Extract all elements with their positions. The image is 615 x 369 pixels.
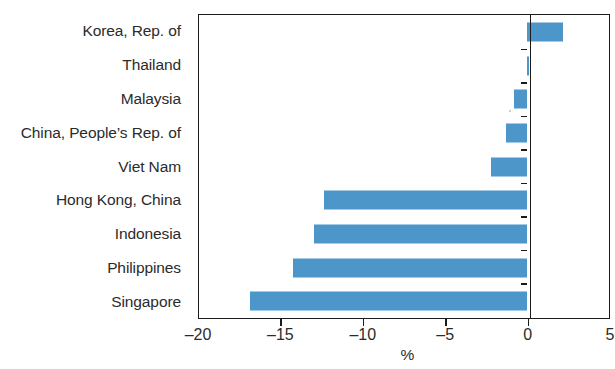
plot-area [198, 14, 610, 319]
bar [527, 22, 563, 41]
x-axis-title: % [0, 346, 615, 364]
bar [491, 157, 527, 176]
x-axis-tick-label: –15 [267, 326, 294, 344]
bar-row [199, 116, 609, 150]
x-axis-tick-label: 0 [523, 326, 532, 344]
bar-row [199, 251, 609, 285]
x-axis-title-text: % [401, 346, 415, 363]
bar [514, 90, 527, 109]
bar [506, 123, 527, 142]
bar-row [199, 183, 609, 217]
x-axis-tick [445, 319, 447, 326]
bar [314, 224, 527, 243]
bar-row [199, 150, 609, 184]
category-label: Viet Nam [0, 150, 190, 184]
category-label: Hong Kong, China [0, 183, 190, 217]
bar-row [199, 49, 609, 83]
bar-chart: Korea, Rep. of Thailand Malaysia China, … [0, 0, 615, 369]
category-label: Korea, Rep. of [0, 14, 190, 48]
x-axis-tick [363, 319, 365, 326]
x-axis-tick [528, 319, 530, 326]
x-axis-tick-label: –10 [349, 326, 376, 344]
y-axis-category-labels: Korea, Rep. of Thailand Malaysia China, … [0, 14, 190, 319]
bar-row [199, 217, 609, 251]
x-axis-tick-labels: –20–15–10–505 [0, 326, 615, 348]
bar [527, 56, 529, 75]
bar-row [199, 82, 609, 116]
category-label: Thailand [0, 48, 190, 82]
bar-series [199, 15, 609, 318]
bar-row [199, 284, 609, 318]
x-axis-tick-label: –20 [185, 326, 212, 344]
bar [324, 191, 527, 210]
x-axis-tick-label: –5 [436, 326, 454, 344]
category-label: China, People’s Rep. of [0, 116, 190, 150]
bar [293, 258, 527, 277]
category-label: Singapore [0, 285, 190, 319]
x-axis-tick [280, 319, 282, 326]
category-label: Philippines [0, 251, 190, 285]
zero-axis-line [530, 15, 532, 318]
bar-row [199, 15, 609, 49]
category-label: Indonesia [0, 217, 190, 251]
x-axis-tick-label: 5 [606, 326, 615, 344]
bar [250, 292, 527, 311]
category-label: Malaysia [0, 82, 190, 116]
